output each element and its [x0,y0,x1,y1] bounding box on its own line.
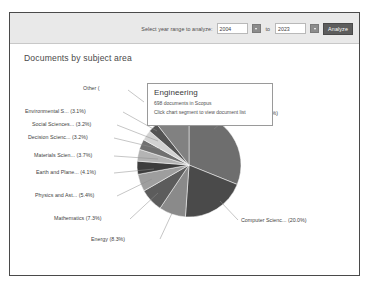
leader-line [128,90,144,102]
year-range-label: Select year range to analyze: [141,26,212,32]
analyze-button[interactable]: Analyze [323,23,353,35]
slice-label-physics-and-astronomy[interactable]: Physics and Ast... (5.4%) [35,192,94,198]
leader-line [117,125,158,141]
slice-label-decision-sciences[interactable]: Decision Scienc... (3.2%) [28,134,88,140]
leader-line [117,179,152,196]
page-title: Documents by subject area [24,53,132,63]
slice-label-energy[interactable]: Energy (8.3%) [91,236,125,242]
slice-label-environmental-science[interactable]: Environmental S... (3.1%) [25,108,86,114]
leader-line [114,169,154,173]
leader-line [130,193,158,219]
leader-line [114,156,158,159]
year-range-controls: Select year range to analyze: 2004 to 20… [141,13,353,44]
slice-label-computer-science[interactable]: Computer Scienc... (20.0%) [241,217,307,223]
slice-label-earth-and-planetary[interactable]: Earth and Plane... (4.1%) [36,169,96,175]
leader-line [220,201,238,220]
start-year-chevron-down-icon[interactable] [252,24,261,33]
tooltip-hint: Click chart segment to view document lis… [154,109,266,115]
slice-label-mathematics[interactable]: Mathematics (7.3%) [54,215,101,221]
slice-label-social-sciences[interactable]: Social Sciences... (3.2%) [32,121,91,127]
leader-line [114,138,160,149]
start-year-input[interactable]: 2004 [217,23,248,34]
tooltip-document-count: 698 documents in Scopus [154,100,266,106]
end-year-input[interactable]: 2023 [275,23,306,34]
slice-label-other[interactable]: Other ( [83,85,100,91]
end-year-chevron-down-icon[interactable] [310,24,319,33]
toolbar: Select year range to analyze: 2004 to 20… [10,13,359,44]
slice-label-materials-science[interactable]: Materials Scien... (3.7%) [34,152,92,158]
tooltip-title: Engineering [154,88,266,97]
pie-chart: Other ( Environmental S... (3.1%) Social… [10,69,360,274]
leader-line [160,211,173,239]
to-label: to [265,26,272,32]
analysis-panel: Select year range to analyze: 2004 to 20… [9,12,360,276]
chart-tooltip: Engineering 698 documents in Scopus Clic… [147,83,273,126]
